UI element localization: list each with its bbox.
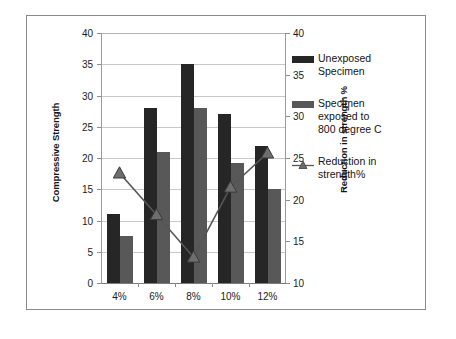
- legend-item-label: Specimen exposed to 800 degree C: [318, 97, 382, 136]
- x-axis-tick-label: 12%: [248, 291, 288, 302]
- y-axis-right-tick-label: 40: [293, 28, 319, 39]
- line-series-layer: [101, 33, 286, 283]
- bar-dark-swatch-icon: [292, 56, 314, 63]
- y-axis-left-tick: [97, 283, 101, 284]
- y-axis-right-tick: [286, 241, 290, 242]
- y-axis-left-tick-label: 25: [67, 121, 93, 132]
- reduction-marker-12[interactable]: [261, 147, 273, 158]
- y-axis-right-tick: [286, 75, 290, 76]
- x-axis-tick: [138, 283, 139, 287]
- x-axis-tick: [212, 283, 213, 287]
- y-axis-left-tick-label: 5: [67, 246, 93, 257]
- legend-item-label: Unexposed Specimen: [318, 52, 371, 78]
- x-axis-tick-label: 4%: [100, 291, 140, 302]
- reduction-line-path: [120, 153, 268, 257]
- chart-legend: Unexposed Specimen Specimen exposed to 8…: [292, 52, 422, 200]
- y-axis-right-tick: [286, 33, 290, 34]
- y-axis-left-title: Compressive Strength: [50, 78, 61, 228]
- gridline: [101, 283, 286, 284]
- line-triangle-swatch-icon: [292, 157, 314, 168]
- y-axis-right-tick-label: 10: [293, 278, 319, 289]
- x-axis-tick-label: 8%: [174, 291, 214, 302]
- y-axis-left-tick-label: 35: [67, 59, 93, 70]
- legend-item-reduction-in-strength[interactable]: Reduction in strength%: [292, 155, 422, 181]
- y-axis-right-tick-label: 15: [293, 236, 319, 247]
- y-axis-right-tick: [286, 283, 290, 284]
- plot-area: 0510152025303540101520253035404%6%8%10%1…: [101, 33, 286, 283]
- x-axis-tick: [175, 283, 176, 287]
- x-axis-tick: [249, 283, 250, 287]
- bar-gray-swatch-icon: [292, 101, 314, 108]
- legend-item-unexposed-specimen[interactable]: Unexposed Specimen: [292, 52, 422, 78]
- y-axis-left-tick-label: 15: [67, 184, 93, 195]
- y-axis-left-tick-label: 20: [67, 153, 93, 164]
- y-axis-right-tick: [286, 158, 290, 159]
- chart-container: Compressive Strength Reduction in streng…: [26, 15, 426, 310]
- y-axis-left-tick-label: 40: [67, 28, 93, 39]
- y-axis-left-tick-label: 10: [67, 215, 93, 226]
- legend-item-label: Reduction in strength%: [318, 155, 376, 181]
- legend-item-exposed-specimen[interactable]: Specimen exposed to 800 degree C: [292, 97, 422, 136]
- y-axis-left-tick-label: 30: [67, 90, 93, 101]
- reduction-marker-4[interactable]: [113, 167, 125, 178]
- x-axis-tick-label: 6%: [137, 291, 177, 302]
- x-axis-tick-label: 10%: [211, 291, 251, 302]
- y-axis-right-tick: [286, 200, 290, 201]
- y-axis-left-tick-label: 0: [67, 278, 93, 289]
- y-axis-right-tick: [286, 116, 290, 117]
